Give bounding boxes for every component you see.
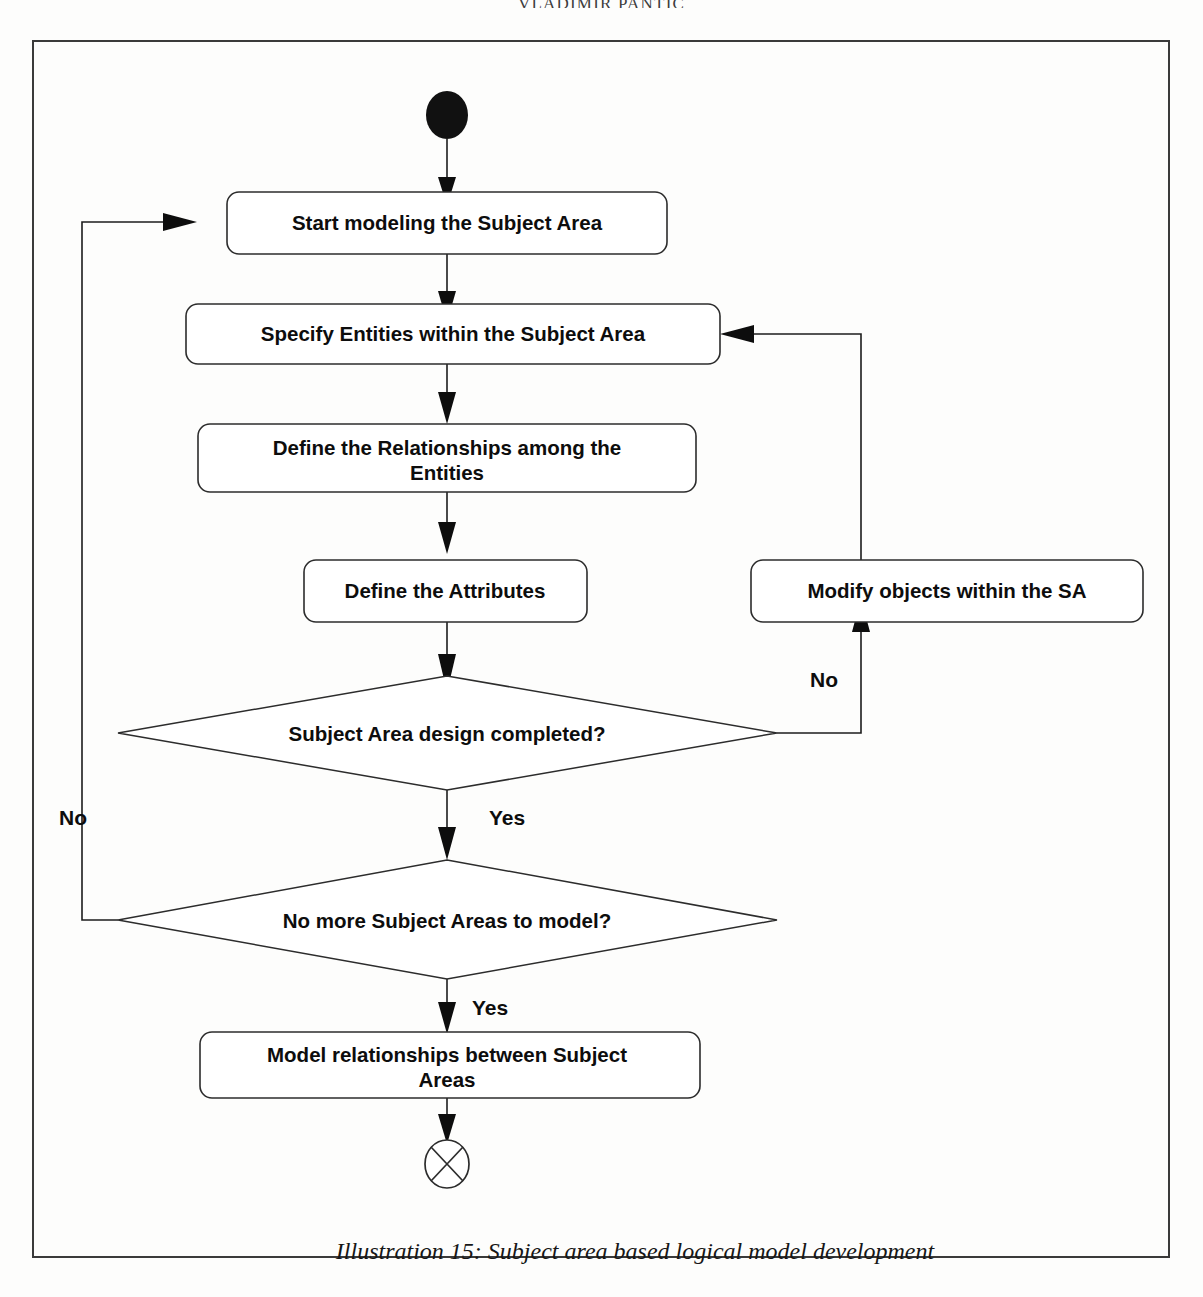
initial-node-icon bbox=[426, 91, 468, 139]
node-define-attributes[interactable]: Define the Attributes bbox=[304, 560, 587, 622]
arrowhead-icon bbox=[163, 213, 197, 231]
document-page: VLADIMIR PANTIC bbox=[0, 0, 1203, 1297]
running-head: VLADIMIR PANTIC bbox=[0, 0, 1203, 8]
arrowhead-icon bbox=[438, 1002, 456, 1034]
node-define-relationships[interactable]: Define the Relationships among the Entit… bbox=[198, 424, 696, 492]
edge-n3-to-n4 bbox=[438, 492, 456, 554]
node-label-line2: Entities bbox=[410, 461, 484, 484]
arrowhead-icon bbox=[438, 392, 456, 424]
node-label: Subject Area design completed? bbox=[288, 722, 605, 745]
node-modify-objects[interactable]: Modify objects within the SA bbox=[751, 560, 1143, 622]
edge-n5-to-n2 bbox=[720, 325, 861, 560]
edge-label-d2-no: No bbox=[59, 806, 87, 829]
edge-label-d1-no: No bbox=[810, 668, 838, 691]
arrowhead-icon bbox=[438, 522, 456, 554]
node-start-modeling-subject-area[interactable]: Start modeling the Subject Area bbox=[227, 192, 667, 254]
edge-n2-to-n3 bbox=[438, 364, 456, 424]
edge-label-d2-yes: Yes bbox=[472, 996, 508, 1019]
node-decision-no-more-subject-areas[interactable]: No more Subject Areas to model? bbox=[118, 860, 777, 979]
node-label: No more Subject Areas to model? bbox=[283, 909, 611, 932]
edge-label-d1-yes: Yes bbox=[489, 806, 525, 829]
node-label-line1: Define the Relationships among the bbox=[273, 436, 622, 459]
edge-d2-yes-to-n6 bbox=[438, 979, 456, 1034]
edge-n6-to-end bbox=[438, 1097, 456, 1144]
edge-d2-no-to-n1 bbox=[82, 213, 197, 920]
figure-frame: Start modeling the Subject Area Specify … bbox=[32, 40, 1170, 1258]
node-label: Modify objects within the SA bbox=[807, 579, 1086, 602]
node-model-relationships-between-subject-areas[interactable]: Model relationships between Subject Area… bbox=[200, 1032, 700, 1098]
node-label-line2: Areas bbox=[419, 1068, 476, 1091]
node-decision-subject-area-design-completed[interactable]: Subject Area design completed? bbox=[118, 676, 777, 790]
node-label: Define the Attributes bbox=[345, 579, 546, 602]
flowchart-canvas: Start modeling the Subject Area Specify … bbox=[34, 42, 1168, 1256]
node-label: Specify Entities within the Subject Area bbox=[261, 322, 646, 345]
node-label: Start modeling the Subject Area bbox=[292, 211, 603, 234]
node-label-line1: Model relationships between Subject bbox=[267, 1043, 627, 1066]
arrowhead-icon bbox=[438, 827, 456, 860]
node-specify-entities[interactable]: Specify Entities within the Subject Area bbox=[186, 304, 720, 364]
edge-d1-yes-to-d2 bbox=[438, 790, 456, 860]
arrowhead-icon bbox=[720, 325, 754, 343]
figure-caption: Illustration 15: Subject area based logi… bbox=[66, 1238, 1203, 1265]
final-node-icon bbox=[425, 1140, 469, 1188]
